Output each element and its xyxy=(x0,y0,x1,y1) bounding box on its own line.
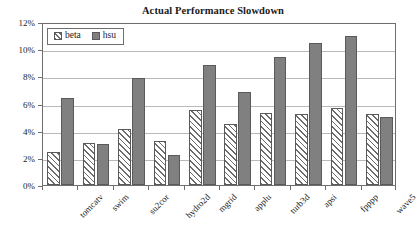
legend-item-hsu: hsu xyxy=(92,31,116,41)
bar-beta-tomcatv xyxy=(47,152,60,185)
y-axis-tick-label: 6% xyxy=(23,100,35,110)
plot-area xyxy=(42,23,396,186)
bar-beta-fpppp xyxy=(331,108,344,185)
bar-hsu-turb3d xyxy=(274,57,287,185)
x-axis-tick-mark xyxy=(219,186,220,190)
x-axis-tick-mark xyxy=(325,186,326,190)
x-axis-label-hydro2d: hydro2d xyxy=(184,192,212,220)
bar-beta-su2cor xyxy=(118,129,131,185)
y-axis-tick-label: 10% xyxy=(19,45,36,55)
y-axis-tick-label: 2% xyxy=(23,154,35,164)
x-axis-label-su2cor: su2cor xyxy=(147,192,171,216)
bar-hsu-hydro2d xyxy=(168,155,181,185)
bar-hsu-apsi xyxy=(309,43,322,185)
bar-beta-turb3d xyxy=(260,113,273,185)
x-axis-label-mgrid: mgrid xyxy=(217,192,239,214)
bar-hsu-fpppp xyxy=(345,36,358,185)
bars-layer xyxy=(43,24,395,185)
x-axis-tick-mark xyxy=(42,186,43,190)
x-axis-label-tomcatv: tomcatv xyxy=(77,192,105,220)
x-axis-tick-mark xyxy=(361,186,362,190)
x-axis-tick-mark xyxy=(254,186,255,190)
y-axis: 0%2%4%6%8%10%12% xyxy=(0,0,42,186)
legend-swatch-hsu-icon xyxy=(92,32,100,40)
bar-hsu-applu xyxy=(238,92,251,185)
x-axis-tick-mark xyxy=(113,186,114,190)
chart-legend: beta hsu xyxy=(47,28,124,45)
x-axis-label-turb3d: turb3d xyxy=(288,192,312,216)
legend-swatch-beta-icon xyxy=(54,32,62,40)
bar-beta-hydro2d xyxy=(154,141,167,185)
chart-title: Actual Performance Slowdown xyxy=(0,5,410,16)
legend-label-hsu: hsu xyxy=(103,31,116,41)
bar-beta-apsi xyxy=(295,114,308,185)
bar-beta-wave5 xyxy=(366,114,379,185)
bar-hsu-mgrid xyxy=(203,65,216,185)
x-axis-label-applu: applu xyxy=(252,192,273,213)
bar-beta-applu xyxy=(224,124,237,185)
x-axis-tick-mark xyxy=(148,186,149,190)
legend-label-beta: beta xyxy=(65,31,81,41)
bar-beta-mgrid xyxy=(189,110,202,185)
x-axis-tick-mark xyxy=(77,186,78,190)
bar-hsu-tomcatv xyxy=(61,98,74,185)
y-axis-tick-label: 4% xyxy=(23,127,35,137)
legend-item-beta: beta xyxy=(54,31,81,41)
x-axis-tick-mark xyxy=(184,186,185,190)
x-axis-label-wave5: wave5 xyxy=(394,192,418,216)
bar-hsu-wave5 xyxy=(380,117,393,185)
bar-hsu-su2cor xyxy=(132,78,145,185)
y-axis-tick-label: 8% xyxy=(23,72,35,82)
x-axis-label-swim: swim xyxy=(110,192,131,213)
bar-beta-swim xyxy=(83,143,96,185)
y-axis-tick-label: 12% xyxy=(19,18,36,28)
x-axis-label-fpppp: fpppp xyxy=(358,192,380,214)
y-axis-tick-label: 0% xyxy=(23,181,35,191)
x-axis-label-apsi: apsi xyxy=(321,192,338,209)
bar-hsu-swim xyxy=(97,144,110,185)
x-axis-tick-mark xyxy=(290,186,291,190)
x-axis-tick-mark xyxy=(395,186,396,190)
